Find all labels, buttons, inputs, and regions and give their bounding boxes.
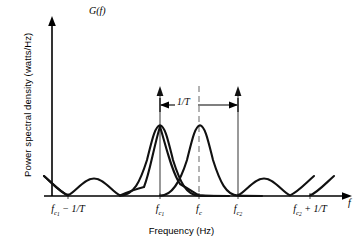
axes-group	[44, 16, 352, 200]
tick-label-fc1-minus-1overT: fc1 − 1/T	[51, 203, 85, 214]
y-axis-caption: Power spectral density (watts/Hz)	[23, 15, 33, 195]
y-axis-arrowhead	[48, 16, 56, 26]
spectrum-curve-fc1	[44, 127, 214, 197]
impulse-arrowhead-fc2	[235, 86, 242, 96]
tick-label-fc2-plus-1overT: fc2 + 1/T	[293, 203, 327, 214]
span-arrowhead-left	[160, 102, 169, 109]
y-axis-symbol-label: G(f)	[89, 6, 106, 16]
x-axis-caption: Frequency (Hz)	[0, 226, 363, 236]
tick-label-fc: fc	[196, 203, 202, 214]
psd-figure: G(f) f Power spectral density (watts/Hz)…	[0, 0, 363, 247]
x-axis-symbol-label: f	[348, 198, 351, 208]
span-arrowhead-right	[229, 102, 238, 109]
spectrum-curve-fc2	[238, 176, 314, 195]
tick-label-fc2: fc2	[234, 203, 243, 214]
impulse-arrowhead-fc1	[157, 86, 164, 96]
spectrum-tail-left	[44, 176, 68, 196]
span-annotation-label: 1/T	[175, 98, 192, 108]
spectrum-main-lobe-fc2	[160, 125, 262, 196]
spectrum-tail-right	[310, 176, 334, 196]
tick-label-fc1: fc1	[156, 203, 165, 214]
